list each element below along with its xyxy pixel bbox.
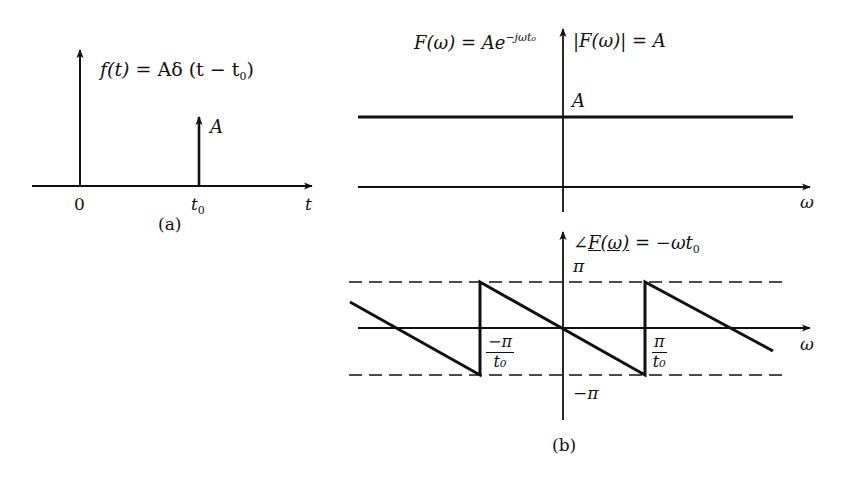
phase-equation: ∠F(ω) = −ωt0 xyxy=(573,234,700,255)
magnitude-equation: |F(ω)| = A xyxy=(573,32,666,50)
pi-over-t0-tick: π t₀ xyxy=(652,334,667,371)
time-equation-close: ) xyxy=(246,58,253,80)
phase-equation-angle: F(ω) xyxy=(588,232,629,253)
pos-tick-numerator: π xyxy=(652,334,667,353)
time-equation-body: = Aδ (t − t xyxy=(130,58,240,80)
phase-omega-label: ω xyxy=(800,336,814,353)
transform-equation-main: F(ω) = Ae xyxy=(414,32,505,53)
phase-equation-sub: 0 xyxy=(693,243,700,256)
magnitude-level-label: A xyxy=(572,92,585,110)
t-axis-label: t xyxy=(305,196,312,213)
impulse-amplitude-label: A xyxy=(210,118,223,136)
caption-a: (a) xyxy=(158,216,181,233)
transform-equation-exponent: −jωt₀ xyxy=(505,31,535,44)
magnitude-omega-label: ω xyxy=(800,194,814,211)
pi-label: π xyxy=(573,258,584,275)
transform-equation: F(ω) = Ae−jωt₀ xyxy=(414,32,536,52)
magnitude-plot xyxy=(358,29,810,212)
phase-equation-rhs: = −ωt xyxy=(629,232,693,253)
neg-tick-numerator: −π xyxy=(486,334,514,353)
neg-pi-over-t0-tick: −π t₀ xyxy=(486,334,514,371)
neg-tick-denominator: t₀ xyxy=(494,353,507,371)
t0-tick-main: t xyxy=(191,194,198,214)
t0-tick-label: t0 xyxy=(191,196,205,216)
pos-tick-denominator: t₀ xyxy=(653,353,666,371)
t0-tick-sub: 0 xyxy=(198,204,205,217)
angle-symbol: ∠ xyxy=(573,232,588,253)
neg-pi-label: −π xyxy=(573,385,598,402)
caption-b: (b) xyxy=(552,437,576,454)
time-equation-lhs: f(t) xyxy=(100,58,130,80)
time-equation: f(t) = Aδ (t − t0) xyxy=(100,60,254,82)
origin-tick-label: 0 xyxy=(74,196,85,213)
